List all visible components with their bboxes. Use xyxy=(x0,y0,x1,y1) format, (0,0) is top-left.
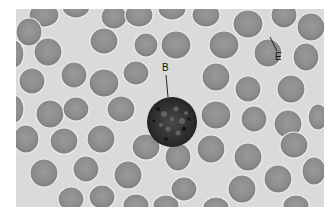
blood-smear-micrograph: B E xyxy=(16,9,324,207)
label-b: B xyxy=(162,63,169,73)
label-e: E xyxy=(275,52,282,62)
micrograph-image xyxy=(16,9,324,207)
leukocyte xyxy=(147,97,197,147)
